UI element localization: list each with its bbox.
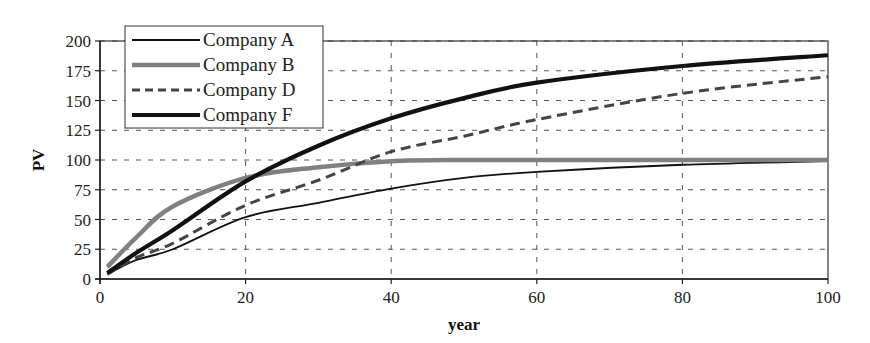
y-tick-label: 0 [83, 270, 92, 289]
y-tick-label: 150 [66, 92, 92, 111]
y-tick-label: 200 [66, 32, 92, 51]
x-tick-label: 100 [815, 288, 841, 307]
legend-label: Company B [203, 54, 294, 75]
x-tick-label: 40 [383, 288, 400, 307]
line-chart: 0255075100125150175200020406080100 Compa… [0, 0, 870, 343]
x-axis-title: year [448, 315, 481, 334]
legend-label: Company D [203, 79, 295, 100]
legend-label: Company A [203, 29, 295, 50]
y-tick-label: 50 [74, 211, 91, 230]
series-line-company-b [107, 160, 828, 267]
y-tick-label: 25 [74, 240, 91, 259]
legend: Company ACompany BCompany DCompany F [125, 26, 323, 128]
x-tick-label: 20 [237, 288, 254, 307]
y-axis-title: PV [29, 148, 48, 171]
y-tick-label: 175 [66, 62, 92, 81]
y-tick-label: 75 [74, 181, 91, 200]
x-tick-label: 80 [674, 288, 691, 307]
series-line-company-a [107, 161, 828, 274]
y-tick-label: 125 [66, 121, 92, 140]
legend-label: Company F [203, 104, 292, 125]
x-tick-label: 0 [96, 288, 105, 307]
x-tick-label: 60 [528, 288, 545, 307]
y-tick-label: 100 [66, 151, 92, 170]
